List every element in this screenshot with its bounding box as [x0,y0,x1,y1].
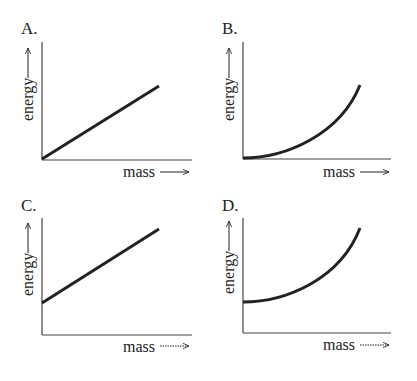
plot-line [42,229,159,303]
panel-label: D. [222,196,239,215]
x-axis-label: mass [323,336,355,353]
y-axis-label: energy [220,251,238,294]
y-axis-label: energy [19,253,37,296]
panel-c: C. energy mass [19,196,192,355]
panel-label: B. [222,19,238,38]
energy-mass-graphs: A. energy mass B. energy mass C. energy … [0,0,417,381]
x-axis-label: mass [123,338,155,355]
panel-label: A. [21,19,38,38]
panel-label: C. [21,196,37,215]
panel-a: A. energy mass [19,19,192,180]
x-axis-label: mass [123,163,155,180]
panel-d: D. energy mass [220,196,391,353]
plot-curve [243,228,360,302]
plot-line [42,86,159,159]
x-axis-label: mass [323,163,355,180]
y-axis-label: energy [19,78,37,121]
panel-b: B. energy mass [220,19,391,180]
plot-curve [243,85,360,158]
y-axis-label: energy [220,78,238,121]
